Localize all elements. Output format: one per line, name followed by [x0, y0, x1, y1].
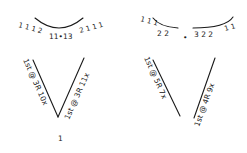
right-top-center-dot: •: [183, 33, 187, 42]
right-top-left-ticks: 1 1 1: [139, 15, 158, 27]
left-diagram-bottom-label: 1: [58, 134, 63, 143]
neckline-sketch: 1 1 1 2 11•13 2 1 1 1 1st @ 3R 10x 1st @…: [0, 0, 247, 153]
right-diagram-left-edge-label: 1st @ 5R 7x: [142, 55, 169, 101]
right-top-right-ticks: 1 1: [223, 22, 236, 33]
left-diagram: 1 1 1 2 11•13 2 1 1 1 1st @ 3R 10x 1st @…: [17, 18, 104, 143]
left-top-center-count: 11•13: [49, 32, 73, 41]
right-diagram: 1 1 1 2 2 • 3 2 2 1 1 1st @ 5R 7x 1st @ …: [139, 15, 236, 127]
right-top-center-left: 2 2: [157, 29, 169, 38]
left-top-left-ticks: 1 1 1 2: [17, 21, 43, 35]
right-top-center-right: 3 2 2: [194, 30, 213, 39]
left-top-right-ticks: 2 1 1 1: [78, 21, 104, 35]
